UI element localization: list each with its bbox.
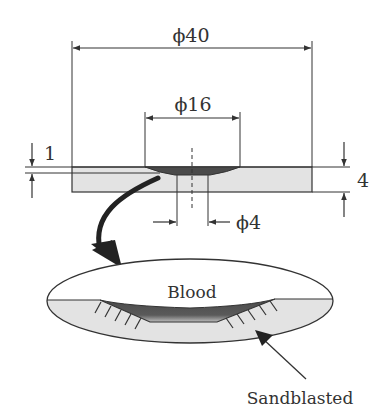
diagram-canvas: ϕ40 ϕ16 ϕ4 1 4 — [0, 0, 392, 415]
dimension-hole-diameter: ϕ4 — [153, 211, 261, 233]
recess-diameter-label: ϕ16 — [174, 93, 211, 115]
plate-thickness-label: 4 — [357, 169, 369, 191]
hole-diameter-label: ϕ4 — [236, 211, 261, 233]
plate-cross-section — [25, 148, 350, 226]
blood-label: Blood — [167, 282, 216, 302]
outer-diameter-label: ϕ40 — [172, 24, 209, 46]
film-thickness-label: 1 — [44, 142, 56, 164]
sandblasted-pointer-line — [262, 338, 306, 379]
detail-view: Blood Sandblasted — [40, 259, 353, 408]
diagram-svg: ϕ40 ϕ16 ϕ4 1 4 — [0, 0, 392, 415]
dimension-film-thickness: 1 — [32, 142, 56, 198]
sandblasted-label: Sandblasted — [247, 388, 354, 408]
dimension-plate-thickness: 4 — [344, 142, 369, 217]
